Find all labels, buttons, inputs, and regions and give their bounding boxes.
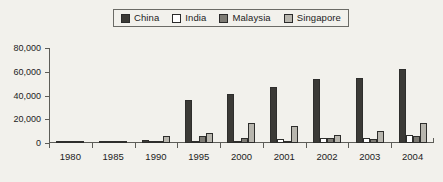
bar-group <box>348 48 391 143</box>
chart-legend: ChinaIndiaMalaysiaSingapore <box>113 9 349 27</box>
x-axis-label: 2000 <box>231 152 252 162</box>
bar-india-1990 <box>149 141 156 143</box>
bar-group <box>177 48 220 143</box>
y-axis-label: 60,000 <box>13 67 41 76</box>
bar-china-1995 <box>185 100 192 143</box>
bar-china-1990 <box>142 140 149 143</box>
x-axis-tick <box>49 143 50 148</box>
bar-china-2004 <box>399 69 406 143</box>
x-axis-tick <box>135 143 136 148</box>
bar-group <box>135 48 178 143</box>
x-axis-label: 2004 <box>402 152 423 162</box>
x-axis-label: 1980 <box>60 152 81 162</box>
bar-singapore-1985 <box>120 141 127 143</box>
legend-label: Singapore <box>297 13 341 23</box>
legend-item-india[interactable]: India <box>172 13 206 23</box>
x-axis-tick <box>391 143 392 148</box>
bar-singapore-2002 <box>334 135 341 143</box>
bar-singapore-1990 <box>163 136 170 143</box>
bar-india-2004 <box>406 135 413 143</box>
x-axis-tick <box>177 143 178 148</box>
x-axis-label: 2001 <box>274 152 295 162</box>
x-axis-label: 1990 <box>145 152 166 162</box>
y-axis-label: 0 <box>36 139 41 148</box>
bar-china-2002 <box>313 79 320 143</box>
x-axis-label: 1995 <box>188 152 209 162</box>
malaysia-swatch <box>219 14 228 23</box>
legend-item-china[interactable]: China <box>121 13 159 23</box>
bar-india-1985 <box>106 141 113 143</box>
bar-group <box>306 48 349 143</box>
india-swatch <box>172 14 181 23</box>
bar-malaysia-2004 <box>413 136 420 143</box>
bar-group <box>92 48 135 143</box>
legend-item-malaysia[interactable]: Malaysia <box>219 13 270 23</box>
bar-group <box>263 48 306 143</box>
bar-singapore-2003 <box>377 131 384 143</box>
bar-malaysia-1990 <box>156 141 163 143</box>
bar-china-2003 <box>356 78 363 143</box>
bar-group <box>49 48 92 143</box>
bar-group <box>220 48 263 143</box>
bar-singapore-2001 <box>291 126 298 143</box>
x-axis-tick <box>263 143 264 148</box>
bar-malaysia-2000 <box>241 138 248 143</box>
china-swatch <box>121 14 130 23</box>
bar-india-2003 <box>363 138 370 143</box>
bar-india-1995 <box>192 141 199 143</box>
bar-malaysia-2002 <box>327 138 334 143</box>
bar-china-1980 <box>56 141 63 143</box>
bar-china-2000 <box>227 94 234 143</box>
bar-singapore-1980 <box>77 141 84 143</box>
x-axis-tick <box>306 143 307 148</box>
bar-chart: ChinaIndiaMalaysiaSingapore 020,00040,00… <box>0 0 443 182</box>
bar-india-1980 <box>63 141 70 143</box>
y-axis-label: 80,000 <box>13 44 41 53</box>
bar-malaysia-2001 <box>284 141 291 143</box>
bar-malaysia-1980 <box>70 141 77 143</box>
singapore-swatch <box>284 14 293 23</box>
bar-india-2002 <box>320 138 327 143</box>
bar-singapore-2004 <box>420 123 427 143</box>
bar-india-2001 <box>277 139 284 143</box>
x-axis-label: 2003 <box>359 152 380 162</box>
bar-china-2001 <box>270 87 277 143</box>
bar-china-1985 <box>99 141 106 143</box>
x-axis-label: 2002 <box>316 152 337 162</box>
legend-label: Malaysia <box>232 13 270 23</box>
x-axis-tick <box>92 143 93 148</box>
legend-label: China <box>134 13 159 23</box>
x-axis-tick <box>220 143 221 148</box>
x-axis-label: 1985 <box>103 152 124 162</box>
bar-singapore-2000 <box>248 123 255 143</box>
x-axis-tick <box>348 143 349 148</box>
bar-singapore-1995 <box>206 133 213 143</box>
bar-malaysia-1985 <box>113 141 120 143</box>
bar-malaysia-2003 <box>370 139 377 143</box>
bar-malaysia-1995 <box>199 136 206 143</box>
legend-label: India <box>185 13 206 23</box>
legend-item-singapore[interactable]: Singapore <box>284 13 341 23</box>
y-axis-label: 40,000 <box>13 91 41 100</box>
plot-area: 020,00040,00060,00080,000198019851990199… <box>49 48 434 143</box>
y-axis-label: 20,000 <box>13 115 41 124</box>
bar-india-2000 <box>234 141 241 143</box>
bar-group <box>391 48 434 143</box>
